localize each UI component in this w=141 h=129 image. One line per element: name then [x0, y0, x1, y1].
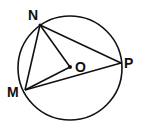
label-m: M	[7, 84, 19, 100]
segment-mp	[25, 63, 121, 90]
circle-diagram: N O P M	[0, 0, 141, 129]
segment-nm	[25, 25, 40, 90]
label-p: P	[124, 55, 133, 71]
center-point	[68, 65, 72, 69]
label-o: O	[75, 59, 86, 75]
point-n	[39, 24, 42, 27]
segment-np	[40, 25, 121, 63]
label-n: N	[28, 7, 38, 23]
